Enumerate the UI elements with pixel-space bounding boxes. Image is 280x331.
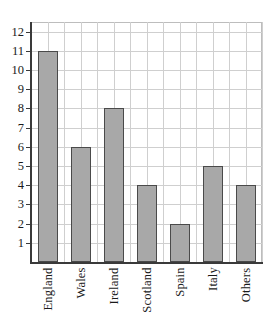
y-tick-label-4: 4 xyxy=(2,179,24,191)
x-label-text: Scotland xyxy=(140,267,154,312)
bar-england xyxy=(38,51,58,262)
x-label-text: Ireland xyxy=(107,267,121,304)
y-tick-mark-12 xyxy=(26,32,32,33)
y-tick-mark-7 xyxy=(26,128,32,129)
y-tick-mark-1 xyxy=(26,243,32,244)
x-label-text: Spain xyxy=(173,267,187,296)
x-label-wales: Wales xyxy=(73,264,89,331)
bar-ireland xyxy=(104,108,124,262)
x-label-others: Others xyxy=(238,264,254,331)
y-tick-label-5: 5 xyxy=(2,160,24,172)
x-label-italy: Italy xyxy=(205,264,221,331)
y-tick-label-1: 1 xyxy=(2,237,24,249)
y-tick-mark-4 xyxy=(26,185,32,186)
x-label-text: Italy xyxy=(206,267,220,291)
gridline-x-3 xyxy=(130,22,131,262)
bar-chart-figure: 121110987654321 EnglandWalesIrelandScotl… xyxy=(0,0,280,331)
gridline-x-6 xyxy=(229,22,230,262)
x-label-text: Wales xyxy=(74,267,88,298)
gridline-x-4 xyxy=(163,22,164,262)
y-tick-label-2: 2 xyxy=(2,218,24,230)
y-tick-label-6: 6 xyxy=(2,141,24,153)
y-tick-mark-11 xyxy=(26,51,32,52)
x-label-text: England xyxy=(41,267,55,310)
x-axis-tick-labels: EnglandWalesIrelandScotlandSpainItalyOth… xyxy=(31,264,262,331)
y-tick-mark-9 xyxy=(26,89,32,90)
y-tick-mark-3 xyxy=(26,204,32,205)
gridline-x-5 xyxy=(196,22,197,262)
x-label-spain: Spain xyxy=(172,264,188,331)
y-tick-mark-8 xyxy=(26,108,32,109)
y-tick-label-10: 10 xyxy=(2,64,24,76)
y-axis-tick-labels: 121110987654321 xyxy=(0,0,24,331)
x-label-scotland: Scotland xyxy=(139,264,155,331)
gridline-x-2 xyxy=(97,22,98,262)
x-label-text: Others xyxy=(239,267,253,302)
bar-italy xyxy=(203,166,223,262)
y-tick-label-7: 7 xyxy=(2,122,24,134)
y-tick-mark-6 xyxy=(26,147,32,148)
y-axis-line xyxy=(30,22,32,263)
plot-area xyxy=(31,22,262,262)
x-label-ireland: Ireland xyxy=(106,264,122,331)
y-tick-label-3: 3 xyxy=(2,198,24,210)
bar-scotland xyxy=(137,185,157,262)
bar-spain xyxy=(170,224,190,262)
y-tick-mark-5 xyxy=(26,166,32,167)
y-tick-label-8: 8 xyxy=(2,102,24,114)
gridline-x-1 xyxy=(64,22,65,262)
y-tick-mark-10 xyxy=(26,70,32,71)
bar-others xyxy=(236,185,256,262)
y-tick-label-11: 11 xyxy=(2,45,24,57)
x-label-england: England xyxy=(40,264,56,331)
y-tick-label-12: 12 xyxy=(2,26,24,38)
y-tick-label-9: 9 xyxy=(2,83,24,95)
y-tick-mark-2 xyxy=(26,224,32,225)
gridline-x-7 xyxy=(262,22,263,262)
bar-wales xyxy=(71,147,91,262)
